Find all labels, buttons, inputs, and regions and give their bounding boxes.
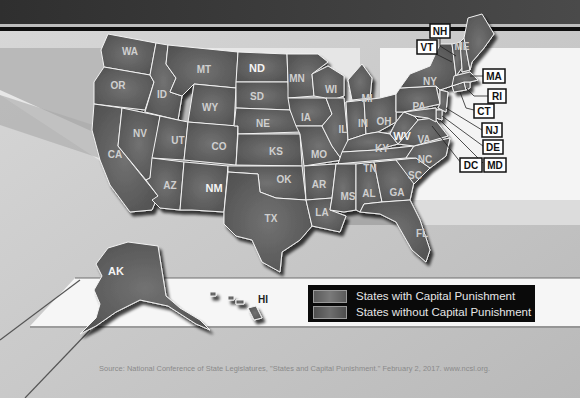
callout-NJ[interactable]: NJ [482,123,502,137]
label-TN: TN [363,163,376,174]
svg-text:MA: MA [486,71,502,82]
label-IL: IL [339,124,348,135]
label-NM: NM [205,182,222,194]
label-NV: NV [133,128,147,139]
state-HI-maui[interactable] [236,300,244,304]
label-AR: AR [312,179,327,190]
top-band [0,0,580,24]
label-IN: IN [358,118,368,129]
label-IA: IA [301,112,311,123]
label-GA: GA [390,187,405,198]
source-citation: Source: National Conference of State Leg… [99,364,490,373]
label-ID: ID [157,89,167,100]
label-NE: NE [256,118,270,129]
label-AZ: AZ [163,180,176,191]
label-OK: OK [277,174,293,185]
label-NY: NY [423,76,437,87]
legend-swatch-without [313,306,347,319]
svg-text:CT: CT [477,106,490,117]
label-MS: MS [341,191,356,202]
label-KY: KY [375,143,389,154]
label-TX: TX [265,213,278,224]
label-SC: SC [408,170,422,181]
label-OR: OR [111,80,127,91]
legend-label-without: States without Capital Punishment [356,306,531,318]
callout-RI[interactable]: RI [488,89,506,103]
callout-NH[interactable]: NH [430,24,450,38]
svg-text:VT: VT [421,42,434,53]
label-MI: MI [361,93,372,104]
callout-VT[interactable]: VT [417,40,437,54]
state-HI-kauai[interactable] [210,292,216,296]
legend-label-with: States with Capital Punishment [356,290,515,302]
state-DE[interactable] [436,110,442,120]
label-CA: CA [108,149,122,160]
label-ME: ME [455,41,470,52]
label-MO: MO [311,149,327,160]
label-AL: AL [362,188,375,199]
svg-text:DC: DC [464,160,478,171]
label-MN: MN [289,73,305,84]
top-band-accent [0,24,580,27]
label-WA: WA [122,46,138,57]
label-OH: OH [377,116,392,127]
svg-text:NH: NH [433,26,447,37]
label-LA: LA [315,207,328,218]
label-FL: FL [416,228,428,239]
label-WI: WI [325,84,337,95]
callout-MA[interactable]: MA [483,69,505,83]
label-KS: KS [269,146,283,157]
state-HI-oahu[interactable] [228,296,234,300]
svg-text:NJ: NJ [486,125,499,136]
callout-MD[interactable]: MD [484,158,506,172]
callout-DE[interactable]: DE [483,140,503,154]
legend: States with Capital Punishment States wi… [308,285,535,322]
legend-item-without: States without Capital Punishment [313,305,531,319]
callout-DC[interactable]: DC [460,158,482,172]
callout-CT[interactable]: CT [474,104,494,118]
label-UT: UT [171,135,184,146]
top-band-rule [0,27,580,31]
label-CO: CO [212,141,227,152]
label-MT: MT [197,64,211,75]
label-PA: PA [412,101,425,112]
label-ND: ND [249,62,265,74]
capital-punishment-map: WA OR CA ID NV MT WY UT CO AZ NM ND SD N… [0,0,580,398]
label-HI: HI [258,294,268,305]
label-AK: AK [108,265,124,277]
label-WV: WV [393,130,411,142]
map-graphic: WA OR CA ID NV MT WY UT CO AZ NM ND SD N… [0,0,580,398]
svg-text:RI: RI [492,91,502,102]
legend-item-with: States with Capital Punishment [313,289,515,303]
label-WY: WY [202,102,218,113]
label-NC: NC [418,154,432,165]
label-SD: SD [250,91,264,102]
svg-text:MD: MD [487,160,503,171]
svg-text:DE: DE [486,142,500,153]
legend-swatch-with [313,290,347,303]
label-VA: VA [417,134,430,145]
